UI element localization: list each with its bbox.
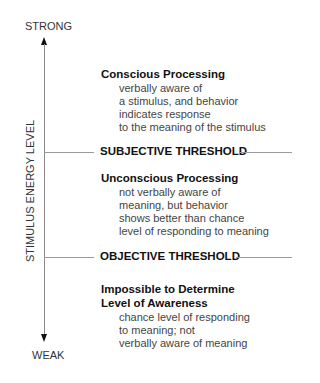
axis-bottom-label: WEAK — [32, 349, 64, 361]
region-title-unconscious: Unconscious Processing — [101, 172, 238, 186]
region-title-conscious: Conscious Processing — [101, 68, 225, 82]
region-desc-line: not verbally aware of — [119, 186, 221, 199]
region-desc-line: verbally aware of — [119, 82, 202, 95]
region-desc-line: level of responding to meaning — [119, 225, 269, 238]
region-desc-line: verbally aware of meaning — [119, 337, 247, 350]
subjective-threshold-line-right — [240, 152, 292, 153]
region-desc-line: meaning, but behavior — [119, 199, 228, 212]
region-desc-line: a stimulus, and behavior — [119, 95, 238, 108]
region-desc-line: shows better than chance — [119, 212, 244, 225]
vertical-axis-line — [44, 44, 45, 336]
subjective-threshold-label: SUBJECTIVE THRESHOLD — [100, 145, 247, 157]
objective-threshold-line-right — [236, 257, 292, 258]
subjective-threshold-line-left — [44, 152, 94, 153]
arrow-down-icon — [41, 334, 47, 342]
axis-vertical-label: STIMULUS ENERGY LEVEL — [24, 120, 36, 262]
axis-top-label: STRONG — [25, 20, 72, 32]
objective-threshold-label: OBJECTIVE THRESHOLD — [100, 250, 240, 262]
region-desc-line: indicates response — [119, 108, 211, 121]
region-title-undetermined-1: Impossible to Determine — [101, 283, 235, 297]
region-desc-line: to the meaning of the stimulus — [119, 121, 266, 134]
region-title-undetermined-2: Level of Awareness — [101, 297, 208, 311]
region-desc-line: chance level of responding — [119, 311, 250, 324]
objective-threshold-line-left — [44, 257, 94, 258]
region-desc-line: to meaning; not — [119, 324, 195, 337]
